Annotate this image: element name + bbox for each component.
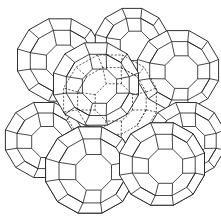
cage-front-bottom-center-right (119, 123, 204, 205)
zeolite-framework-figure: Zeolite framework line drawing: sodalite… (0, 0, 221, 220)
framework-diagram (0, 0, 221, 220)
cage-front-top-center (53, 43, 138, 125)
cage-front-top-right (137, 31, 218, 110)
